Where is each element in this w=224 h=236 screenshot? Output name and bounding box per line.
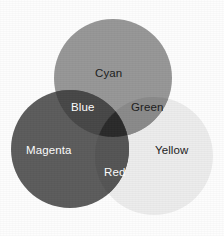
venn-label-cyan: Cyan	[95, 68, 122, 80]
venn-label-yellow: Yellow	[155, 145, 188, 157]
venn-label-magenta: Magenta	[26, 145, 71, 157]
venn-label-green: Green	[131, 102, 163, 114]
venn-label-red: Red	[104, 167, 125, 179]
venn-label-blue: Blue	[71, 102, 94, 114]
venn-diagram-canvas	[0, 0, 224, 236]
venn-diagram-figure: Cyan Green Blue Magenta Red Yellow	[0, 0, 224, 236]
